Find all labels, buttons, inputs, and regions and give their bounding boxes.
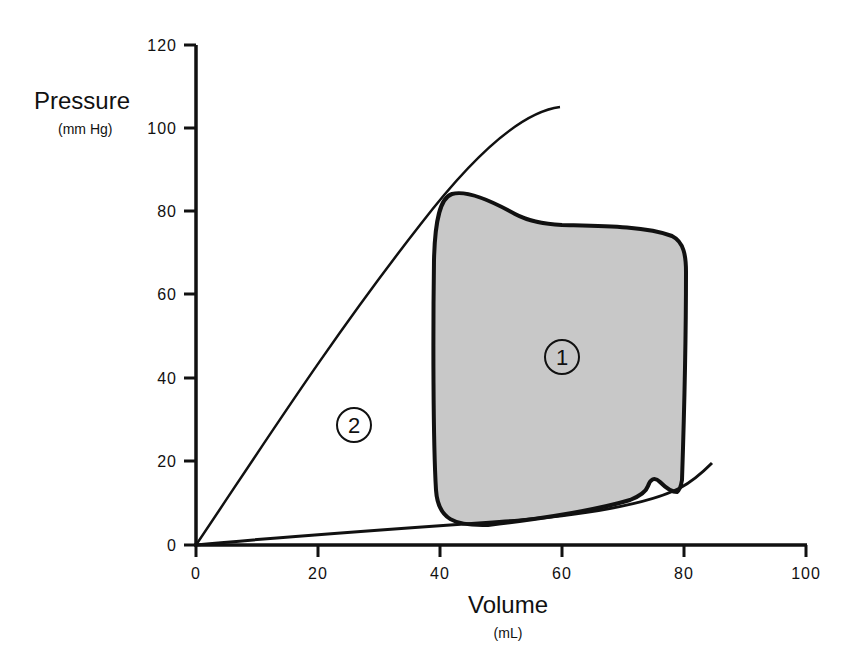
y-tick-label: 100 bbox=[147, 120, 177, 137]
y-tick-label: 0 bbox=[167, 537, 177, 554]
x-axis-unit: (mL) bbox=[494, 625, 523, 641]
x-tick-label: 80 bbox=[674, 565, 694, 582]
y-tick-label: 80 bbox=[157, 203, 177, 220]
y-tick-label: 120 bbox=[147, 37, 177, 54]
y-ticks bbox=[184, 45, 196, 545]
y-axis-unit: (mm Hg) bbox=[58, 121, 112, 137]
y-tick-labels: 0 20 40 60 80 100 120 bbox=[147, 37, 177, 554]
region-2-label: 2 bbox=[337, 408, 371, 442]
y-axis-title: Pressure bbox=[34, 87, 130, 114]
x-tick-label: 40 bbox=[430, 565, 450, 582]
region-1-text: 1 bbox=[556, 345, 568, 370]
x-tick-label: 100 bbox=[791, 565, 821, 582]
region-2-text: 2 bbox=[348, 413, 360, 438]
pressure-volume-chart: 0 20 40 60 80 100 120 0 20 40 60 80 100 … bbox=[0, 0, 862, 661]
x-tick-labels: 0 20 40 60 80 100 bbox=[191, 565, 821, 582]
x-tick-label: 60 bbox=[552, 565, 572, 582]
y-tick-label: 40 bbox=[157, 370, 177, 387]
y-tick-label: 20 bbox=[157, 453, 177, 470]
x-tick-label: 20 bbox=[308, 565, 328, 582]
x-ticks bbox=[196, 545, 806, 557]
x-axis-title: Volume bbox=[468, 591, 548, 618]
x-tick-label: 0 bbox=[191, 565, 201, 582]
y-tick-label: 60 bbox=[157, 286, 177, 303]
